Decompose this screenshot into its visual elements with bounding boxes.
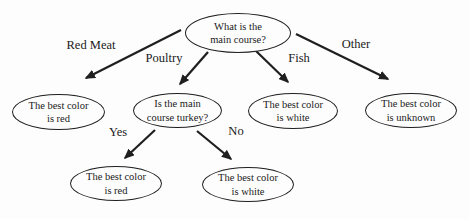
decision-tree-diagram: What is the main course? The best color … xyxy=(0,0,469,219)
arrow-no xyxy=(197,131,231,159)
edge-label-yes: Yes xyxy=(109,125,127,140)
node-main-course-question: What is the main course? xyxy=(185,13,291,53)
node-best-color-white: The best color is white xyxy=(248,93,338,129)
edge-label-other: Other xyxy=(342,37,370,52)
node-best-color-white-2: The best color is white xyxy=(202,167,294,202)
arrow-fish xyxy=(256,51,288,82)
node-turkey-question: Is the main course turkey? xyxy=(133,93,222,128)
edge-label-red-meat: Red Meat xyxy=(67,38,116,53)
edge-label-fish: Fish xyxy=(288,51,310,66)
arrow-yes xyxy=(125,130,155,158)
edge-label-poultry: Poultry xyxy=(146,51,183,66)
node-best-color-red: The best color is red xyxy=(12,94,105,130)
edge-label-no: No xyxy=(228,124,243,139)
node-best-color-unknown: The best color is unknown xyxy=(365,93,457,128)
node-best-color-red-2: The best color is red xyxy=(70,166,162,201)
arrow-poultry xyxy=(180,52,208,84)
